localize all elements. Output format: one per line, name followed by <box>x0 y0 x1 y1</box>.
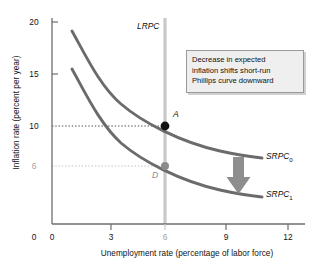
y-axis-title: Inflation rate (percent per year) <box>12 38 21 188</box>
lrpc-label: LRPC <box>137 21 159 31</box>
phillips-curve-figure: Inflation rate (percent per year) Unempl… <box>0 0 320 265</box>
srpc0-label: SRPC0 <box>266 151 293 163</box>
y-tick-label-6: 6 <box>22 161 46 171</box>
point-a-marker <box>161 122 170 131</box>
point-d-label: D <box>152 170 158 180</box>
x-axis-title: Unemployment rate (percentage of labor f… <box>62 249 312 258</box>
x-tick-label-6: 6 <box>153 232 177 242</box>
x-tick-label-12: 12 <box>276 232 300 242</box>
srpc1-label: SRPC1 <box>266 189 293 201</box>
x-tick-label-9: 9 <box>214 232 238 242</box>
annotation-line-2: inflation shifts short-run <box>192 66 298 77</box>
annotation-box: Decrease in expected inflation shifts sh… <box>186 50 304 93</box>
srpc1-label-base: SRPC <box>266 189 289 199</box>
x-tick-label-3: 3 <box>99 232 123 242</box>
y-tick-label-20: 20 <box>22 17 46 27</box>
point-a-label: A <box>173 109 179 119</box>
y-tick-label-15: 15 <box>22 69 46 79</box>
y-tick-label-10: 10 <box>22 121 46 131</box>
x-tick-label-0: 0 <box>40 232 64 242</box>
shift-arrow-icon <box>227 157 251 194</box>
srpc0-label-subscript: 0 <box>289 156 292 163</box>
point-d-marker <box>161 162 169 170</box>
annotation-line-1: Decrease in expected <box>192 55 298 66</box>
annotation-line-3: Phillips curve downward <box>192 76 298 87</box>
srpc0-label-base: SRPC <box>266 151 289 161</box>
srpc1-label-subscript: 1 <box>289 194 292 201</box>
chart-canvas <box>0 0 320 265</box>
